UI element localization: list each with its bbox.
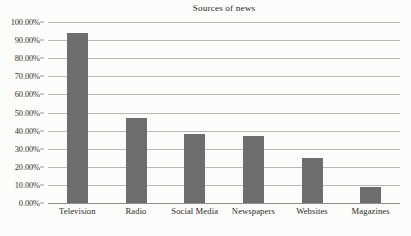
bar — [302, 158, 323, 203]
y-tick-label: 40.00% — [0, 126, 40, 135]
y-tick-mark — [40, 58, 44, 59]
y-tick-mark — [40, 112, 44, 113]
y-tick-label: 20.00% — [0, 162, 40, 171]
y-tick-label: 10.00% — [0, 180, 40, 189]
x-tick-label: Magazines — [352, 206, 390, 216]
bar — [126, 118, 147, 203]
bar — [67, 33, 88, 203]
x-axis: TelevisionRadioSocial MediaNewspapersWeb… — [48, 206, 400, 226]
y-tick-mark — [40, 148, 44, 149]
y-tick-label: 60.00% — [0, 90, 40, 99]
y-axis: 0.00%10.00%20.00%30.00%40.00%50.00%60.00… — [0, 22, 44, 203]
bar — [243, 136, 264, 203]
y-tick-label: 70.00% — [0, 72, 40, 81]
y-tick-mark — [40, 184, 44, 185]
y-tick-label: 50.00% — [0, 108, 40, 117]
y-tick-mark — [40, 76, 44, 77]
y-tick-label: 100.00% — [0, 18, 40, 27]
y-tick-label: 30.00% — [0, 144, 40, 153]
bar-chart-figure: Sources of news 0.00%10.00%20.00%30.00%4… — [0, 0, 411, 236]
y-tick-mark — [40, 40, 44, 41]
y-tick-mark — [40, 130, 44, 131]
bar — [360, 187, 381, 203]
x-tick-label: Websites — [296, 206, 328, 216]
y-tick-mark — [40, 94, 44, 95]
y-tick-mark — [40, 203, 44, 204]
y-tick-mark — [40, 166, 44, 167]
y-tick-mark — [40, 22, 44, 23]
x-tick-label: Television — [59, 206, 96, 216]
chart-title: Sources of news — [48, 3, 400, 13]
y-tick-label: 80.00% — [0, 54, 40, 63]
x-tick-label: Radio — [125, 206, 146, 216]
bar — [184, 134, 205, 203]
y-tick-label: 0.00% — [0, 199, 40, 208]
x-tick-label: Newspapers — [232, 206, 275, 216]
plot-area — [48, 22, 400, 203]
axis-baseline — [48, 203, 400, 204]
y-tick-label: 90.00% — [0, 36, 40, 45]
x-tick-label: Social Media — [171, 206, 218, 216]
bars-layer — [48, 22, 400, 203]
